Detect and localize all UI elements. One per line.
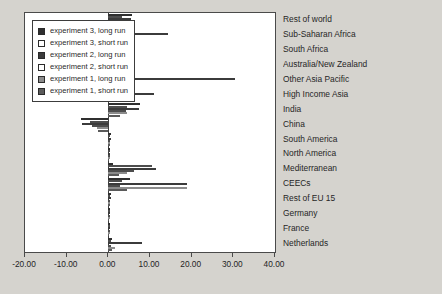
bar bbox=[108, 242, 141, 244]
category-label: Sub-Saharan Africa bbox=[283, 27, 438, 42]
category-label: High Income Asia bbox=[283, 87, 438, 102]
bar-group bbox=[25, 192, 275, 207]
legend-item[interactable]: experiment 2, short run bbox=[38, 61, 128, 73]
legend-item-label: experiment 2, long run bbox=[50, 49, 126, 61]
bar bbox=[98, 130, 108, 132]
legend-item-label: experiment 3, long run bbox=[50, 25, 126, 37]
category-label: Netherlands bbox=[283, 236, 438, 251]
bar bbox=[108, 204, 109, 206]
legend-item-label: experiment 1, long run bbox=[50, 73, 126, 85]
legend-item-label: experiment 3, short run bbox=[50, 37, 128, 49]
bar bbox=[108, 249, 112, 251]
legend-swatch-icon bbox=[38, 40, 45, 47]
bar bbox=[108, 234, 109, 236]
category-label: Mediterranean bbox=[283, 161, 438, 176]
bar-group bbox=[25, 103, 275, 118]
bar-group bbox=[25, 177, 275, 192]
category-label: Other Asia Pacific bbox=[283, 72, 438, 87]
category-labels: Rest of worldSub-Saharan AfricaSouth Afr… bbox=[283, 12, 438, 251]
legend-swatch-icon bbox=[38, 64, 45, 71]
legend-swatch-icon bbox=[38, 76, 45, 83]
x-axis: -20.00-10.000.0010.0020.0030.0040.00 bbox=[24, 253, 276, 283]
legend-item[interactable]: experiment 1, short run bbox=[38, 85, 128, 97]
bar-group bbox=[25, 147, 275, 162]
bar bbox=[108, 219, 109, 221]
category-label: North America bbox=[283, 146, 438, 161]
legend-swatch-icon bbox=[38, 88, 45, 95]
x-tick-label: -20.00 bbox=[12, 259, 36, 269]
bar-group bbox=[25, 207, 275, 222]
legend-item-label: experiment 1, short run bbox=[50, 85, 128, 97]
x-tick-label: 0.00 bbox=[99, 259, 115, 269]
x-tick-label: -10.00 bbox=[54, 259, 78, 269]
bar-group bbox=[25, 237, 275, 252]
category-label: Rest of world bbox=[283, 12, 438, 27]
chart-legend: experiment 3, long runexperiment 3, shor… bbox=[32, 20, 135, 102]
x-tick-mark bbox=[24, 253, 25, 257]
legend-item-label: experiment 2, short run bbox=[50, 61, 128, 73]
x-tick-mark bbox=[191, 253, 192, 257]
legend-item[interactable]: experiment 3, short run bbox=[38, 37, 128, 49]
category-label: South Africa bbox=[283, 42, 438, 57]
chart-screenshot: experiment 3, long runexperiment 3, shor… bbox=[0, 0, 442, 294]
legend-item[interactable]: experiment 1, long run bbox=[38, 73, 128, 85]
category-label: India bbox=[283, 102, 438, 117]
plot-frame: experiment 3, long runexperiment 3, shor… bbox=[24, 12, 276, 253]
bar bbox=[108, 115, 119, 117]
x-tick-mark bbox=[66, 253, 67, 257]
bar-group bbox=[25, 133, 275, 148]
category-label: Germany bbox=[283, 206, 438, 221]
x-tick-label: 20.00 bbox=[180, 259, 201, 269]
x-tick-label: 40.00 bbox=[264, 259, 285, 269]
category-label: China bbox=[283, 117, 438, 132]
category-label: Rest of EU 15 bbox=[283, 191, 438, 206]
category-label: France bbox=[283, 221, 438, 236]
category-label: Australia/New Zealand bbox=[283, 57, 438, 72]
legend-item[interactable]: experiment 3, long run bbox=[38, 25, 128, 37]
x-tick-mark bbox=[274, 253, 275, 257]
bar bbox=[108, 189, 126, 191]
bar-group bbox=[25, 118, 275, 133]
x-tick-mark bbox=[232, 253, 233, 257]
category-label: CEECs bbox=[283, 176, 438, 191]
bar-group bbox=[25, 222, 275, 237]
bar bbox=[108, 174, 119, 176]
legend-item[interactable]: experiment 2, long run bbox=[38, 49, 128, 61]
category-label: South America bbox=[283, 132, 438, 147]
legend-swatch-icon bbox=[38, 28, 45, 35]
bar-group bbox=[25, 162, 275, 177]
bar bbox=[108, 159, 109, 161]
bar bbox=[108, 183, 187, 185]
bar bbox=[108, 144, 109, 146]
legend-swatch-icon bbox=[38, 52, 45, 59]
x-tick-label: 10.00 bbox=[139, 259, 160, 269]
x-tick-mark bbox=[107, 253, 108, 257]
x-tick-label: 30.00 bbox=[222, 259, 243, 269]
x-tick-mark bbox=[149, 253, 150, 257]
